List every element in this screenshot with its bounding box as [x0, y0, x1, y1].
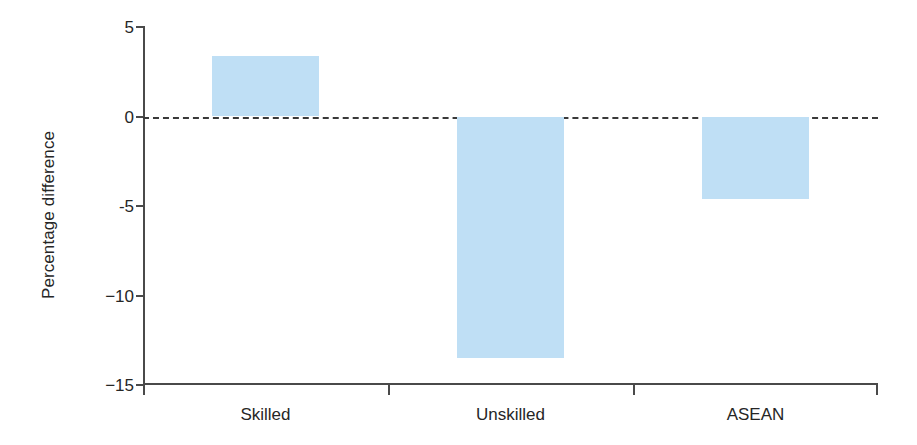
plot-area: 50-5−10−15 SkilledUnskilledASEAN: [143, 27, 878, 385]
bar-chart: Percentage difference 50-5−10−15 Skilled…: [0, 0, 917, 445]
y-tick-mark: [136, 26, 145, 28]
x-axis-line: [143, 383, 878, 385]
x-axis-label-asean: ASEAN: [727, 405, 785, 425]
y-tick-mark: [136, 295, 145, 297]
bar-asean: [702, 117, 810, 199]
y-tick-label: −10: [105, 287, 134, 307]
bar-skilled: [212, 56, 320, 117]
y-tick-label: -5: [119, 197, 134, 217]
x-tick-mark: [388, 385, 390, 395]
y-tick-mark: [136, 205, 145, 207]
y-tick-label: 5: [125, 18, 134, 38]
y-axis-title: Percentage difference: [38, 65, 60, 365]
x-tick-mark: [876, 385, 878, 395]
x-axis-label-skilled: Skilled: [240, 405, 290, 425]
bar-unskilled: [457, 117, 565, 359]
y-tick-label: −15: [105, 376, 134, 396]
y-tick-label: 0: [125, 108, 134, 128]
x-axis-label-unskilled: Unskilled: [476, 405, 545, 425]
x-tick-mark: [633, 385, 635, 395]
x-tick-mark: [143, 385, 145, 395]
